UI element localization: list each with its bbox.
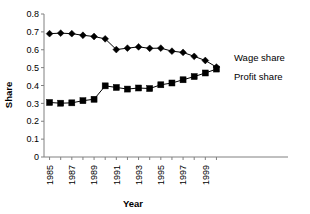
x-axis-tick-label: 1997 bbox=[178, 165, 188, 185]
series-line-wage-share bbox=[50, 33, 217, 67]
y-axis-tick-label: 0.3 bbox=[26, 99, 39, 109]
data-point-marker bbox=[169, 48, 176, 55]
data-point-marker bbox=[69, 100, 75, 106]
data-point-marker bbox=[180, 49, 187, 56]
y-axis-tick-label: 0.1 bbox=[26, 134, 39, 144]
data-point-marker bbox=[80, 98, 86, 104]
line-chart: 00.10.20.30.40.50.60.70.8198519871989199… bbox=[0, 0, 310, 214]
series-label-wage-share: Wage share bbox=[234, 52, 285, 63]
data-point-marker bbox=[80, 32, 87, 39]
y-axis-tick-label: 0.4 bbox=[26, 81, 39, 91]
data-point-marker bbox=[202, 57, 209, 64]
data-point-marker bbox=[135, 43, 142, 50]
data-point-marker bbox=[202, 70, 208, 76]
data-point-marker bbox=[213, 66, 219, 72]
data-point-marker bbox=[113, 84, 119, 90]
series-label-profit-share: Profit share bbox=[234, 71, 283, 82]
x-axis-tick-label: 1995 bbox=[156, 165, 166, 185]
y-axis-title: Share bbox=[3, 82, 14, 108]
data-point-marker bbox=[124, 45, 131, 52]
data-point-marker bbox=[136, 85, 142, 91]
data-point-marker bbox=[102, 83, 108, 89]
x-axis-tick-label: 1991 bbox=[112, 165, 122, 185]
y-axis-tick-label: 0.6 bbox=[26, 45, 39, 55]
data-point-marker bbox=[169, 80, 175, 86]
data-point-marker bbox=[180, 77, 186, 83]
data-point-marker bbox=[68, 30, 75, 37]
x-axis-tick-label: 1989 bbox=[89, 165, 99, 185]
y-axis-tick-label: 0 bbox=[34, 152, 39, 162]
data-point-marker bbox=[191, 74, 197, 80]
data-point-marker bbox=[91, 33, 98, 40]
data-point-marker bbox=[146, 45, 153, 52]
data-point-marker bbox=[91, 96, 97, 102]
y-axis-tick-label: 0.5 bbox=[26, 63, 39, 73]
data-point-marker bbox=[124, 86, 130, 92]
data-point-marker bbox=[158, 82, 164, 88]
chart-figure: 00.10.20.30.40.50.60.70.8198519871989199… bbox=[0, 0, 310, 214]
data-point-marker bbox=[46, 30, 53, 37]
x-axis-title: Year bbox=[123, 198, 143, 209]
y-axis-tick-label: 0.7 bbox=[26, 27, 39, 37]
x-axis-tick-label: 1993 bbox=[134, 165, 144, 185]
data-point-marker bbox=[191, 53, 198, 60]
data-point-marker bbox=[58, 100, 64, 106]
x-axis-tick-label: 1987 bbox=[67, 165, 77, 185]
x-axis-tick-label: 1999 bbox=[201, 165, 211, 185]
data-point-marker bbox=[57, 30, 64, 37]
data-point-marker bbox=[147, 86, 153, 92]
x-axis-tick-label: 1985 bbox=[45, 165, 55, 185]
y-axis-tick-label: 0.2 bbox=[26, 116, 39, 126]
data-point-marker bbox=[47, 99, 53, 105]
y-axis-tick-label: 0.8 bbox=[26, 9, 39, 19]
data-point-marker bbox=[157, 45, 164, 52]
